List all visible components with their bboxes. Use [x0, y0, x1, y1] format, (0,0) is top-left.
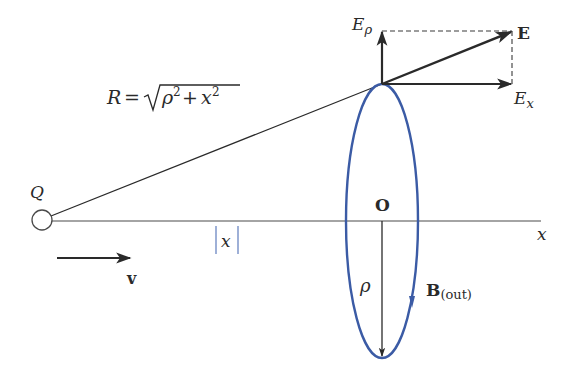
formula-r: R [106, 86, 121, 108]
formula-x: x [201, 86, 212, 108]
formula-x-exp: 2 [212, 85, 220, 99]
origin-label: O [375, 195, 390, 215]
distance-x-label: x [221, 231, 231, 251]
r-distance-line [51, 84, 382, 216]
radius-formula: R = ρ 2 + x 2 [106, 85, 240, 110]
x-axis-label: x [537, 224, 547, 244]
e-x-label: Ex [513, 88, 534, 111]
e-rho-label: Eρ [351, 14, 372, 37]
formula-rho-exp: 2 [173, 85, 181, 99]
charge-q-label: Q [30, 182, 44, 202]
formula-equals: = [124, 86, 140, 108]
formula-plus: + [182, 86, 198, 108]
velocity-label: v [126, 269, 137, 288]
charge-q-circle [32, 210, 52, 230]
rho-label: ρ [359, 275, 371, 296]
e-field-arrow [382, 32, 511, 84]
e-field-label: E [517, 23, 530, 43]
moving-charge-diagram: x Q v x R = ρ 2 + x 2 ρ O B(out) Eρ E [0, 0, 575, 385]
b-field-label: B(out) [426, 280, 472, 302]
